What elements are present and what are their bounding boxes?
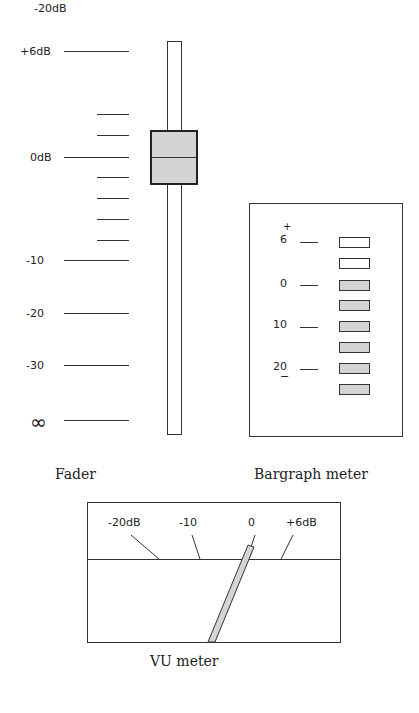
fader-tick-minor (97, 198, 129, 199)
bargraph-segment-off (339, 258, 370, 269)
bargraph-segment-on (339, 300, 370, 311)
fader-label-minus10: -10 (26, 254, 44, 267)
fader-tick-minor (97, 177, 129, 178)
bargraph-minus-sign: − (280, 370, 289, 383)
bargraph-label-6: 6 (280, 233, 287, 246)
fader-tick-major (64, 157, 129, 158)
fader-tick-major (64, 365, 129, 366)
bargraph-meter: + 6 0 10 20 − (249, 203, 403, 437)
fader-knob[interactable] (150, 130, 198, 185)
fader-tick-minor (97, 114, 129, 115)
bargraph-tick (300, 327, 318, 328)
vu-meter: -20dB -10 0 +6dB (87, 502, 341, 643)
fader-tick-minor (97, 219, 129, 220)
vu-tick-marks-and-needle (88, 503, 340, 642)
fader-track[interactable] (167, 41, 182, 435)
cut-off-scale-label: -20dB (34, 2, 67, 15)
bargraph-segment-off (339, 237, 370, 248)
bargraph-label-0: 0 (280, 277, 287, 290)
fader-tick-major (64, 260, 129, 261)
bargraph-segment-on (339, 363, 370, 374)
bargraph-tick (300, 369, 318, 370)
fader-tick-major (64, 420, 129, 421)
fader-label-minus30: -30 (26, 359, 44, 372)
bargraph-tick (300, 242, 318, 243)
bargraph-plus-sign: + (283, 221, 291, 232)
bargraph-segment-on (339, 280, 370, 291)
bargraph-segment-on (339, 321, 370, 332)
bargraph-segment-on (339, 384, 370, 395)
fader-tick-major (64, 51, 129, 52)
bargraph-tick (300, 285, 318, 286)
fader-tick-minor (97, 135, 129, 136)
fader-caption: Fader (55, 466, 96, 482)
vu-caption: VU meter (150, 653, 219, 669)
fader-knob-indicator-line (152, 157, 196, 158)
bargraph-caption: Bargraph meter (254, 466, 368, 482)
fader-label-plus6: +6dB (20, 45, 51, 58)
fader-label-0db: 0dB (30, 151, 52, 164)
fader-tick-minor (97, 240, 129, 241)
bargraph-label-10: 10 (273, 318, 287, 331)
bargraph-segment-on (339, 342, 370, 353)
fader-label-minus20: -20 (26, 307, 44, 320)
fader-label-infinity: ∞ (30, 410, 47, 434)
fader-tick-major (64, 313, 129, 314)
